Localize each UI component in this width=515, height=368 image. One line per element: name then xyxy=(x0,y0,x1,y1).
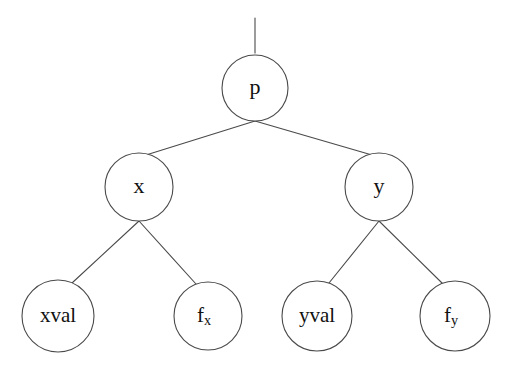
tree-edge-y-fy xyxy=(379,221,442,283)
tree-node-fy[interactable]: fy xyxy=(420,281,490,351)
node-label-xval: xval xyxy=(40,303,76,327)
node-label-x: x xyxy=(134,173,145,198)
tree-node-p[interactable]: p xyxy=(222,55,288,121)
tree-node-xval[interactable]: xval xyxy=(22,280,94,352)
tree-node-fx[interactable]: fx xyxy=(174,282,242,350)
tree-diagram: pxyxvalfxyvalfy xyxy=(0,0,515,368)
tree-node-yval[interactable]: yval xyxy=(282,281,352,351)
tree-edge-x-fx xyxy=(139,221,196,284)
tree-diagram-canvas: pxyxvalfxyvalfy xyxy=(0,0,515,368)
tree-node-y[interactable]: y xyxy=(345,153,413,221)
tree-node-x[interactable]: x xyxy=(105,153,173,221)
node-label-yval: yval xyxy=(299,303,335,327)
tree-edge-x-xval xyxy=(72,221,139,283)
tree-edge-p-y xyxy=(255,121,372,155)
nodes-group: pxyxvalfxyvalfy xyxy=(22,55,490,352)
node-label-y: y xyxy=(374,173,385,198)
node-label-p: p xyxy=(250,74,261,99)
tree-edge-y-yval xyxy=(329,221,379,283)
tree-edge-p-x xyxy=(146,121,255,155)
